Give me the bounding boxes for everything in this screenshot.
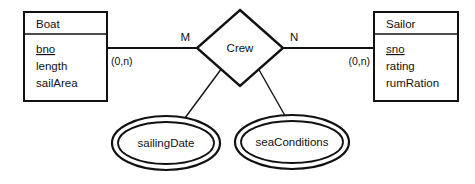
attribute-sea-conditions[interactable]: seaConditions (235, 115, 349, 169)
degree-label-right: N (290, 31, 298, 43)
relationship-crew[interactable]: Crew (197, 10, 283, 86)
attribute-sea-conditions-label: seaConditions (256, 136, 329, 148)
er-diagram-canvas: Boat bno length sailArea Sailor sno rati… (0, 0, 475, 184)
entity-sailor-attribute-key: sno (386, 43, 405, 55)
entity-sailor[interactable]: Sailor sno rating rumRation (374, 12, 458, 101)
attribute-sailing-date[interactable]: sailingDate (112, 116, 220, 170)
entity-boat-title: Boat (36, 18, 60, 30)
entity-boat-attribute-key: bno (36, 43, 55, 55)
cardinality-label-boat: (0,n) (111, 55, 133, 67)
entity-sailor-title: Sailor (386, 18, 416, 30)
entity-boat-attribute-sailarea: sailArea (36, 77, 78, 89)
entity-boat-attribute-length: length (36, 60, 67, 72)
connector-crew-sailingdate (182, 68, 222, 122)
attribute-sailing-date-label: sailingDate (138, 137, 195, 149)
degree-label-left: M (180, 31, 190, 43)
er-diagram-svg: Boat bno length sailArea Sailor sno rati… (0, 0, 475, 184)
connector-crew-seaconditions (258, 68, 288, 121)
entity-boat[interactable]: Boat bno length sailArea (24, 12, 107, 101)
cardinality-label-sailor: (0,n) (348, 55, 370, 67)
entity-sailor-attribute-rumration: rumRation (386, 77, 439, 89)
relationship-crew-label: Crew (227, 42, 255, 54)
entity-sailor-attribute-rating: rating (386, 60, 415, 72)
